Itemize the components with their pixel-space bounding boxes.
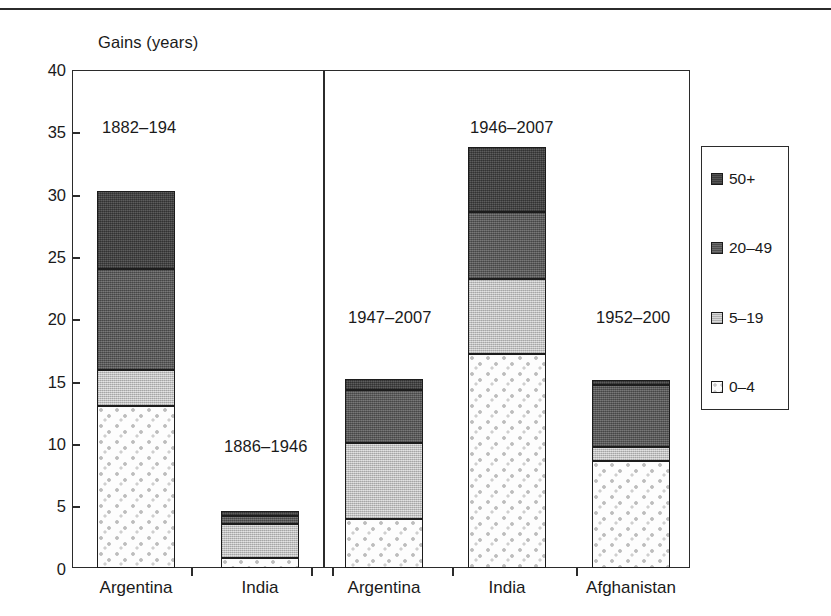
bar-segment-50plus bbox=[221, 511, 299, 516]
bar-segment-50plus bbox=[468, 147, 546, 212]
bar-segment-20-49 bbox=[221, 516, 299, 524]
bar-segment-5-19 bbox=[221, 524, 299, 558]
legend-label-0-4: 0–4 bbox=[729, 379, 755, 395]
legend-swatch-50plus-icon bbox=[711, 173, 723, 185]
bar-segment-0-4 bbox=[221, 558, 299, 568]
x-label-argentina-2: Argentina bbox=[334, 578, 434, 598]
bar-india-1886[interactable] bbox=[221, 511, 299, 568]
x-label-afghanistan: Afghanistan bbox=[575, 578, 687, 598]
bar-note-argentina-1882: 1882–194 bbox=[102, 118, 176, 137]
bar-segment-0-4 bbox=[97, 406, 175, 568]
bar-segment-5-19 bbox=[345, 443, 423, 519]
x-label-argentina-1: Argentina bbox=[86, 578, 186, 598]
bar-segment-50plus bbox=[592, 380, 670, 385]
legend-label-50plus: 50+ bbox=[729, 171, 755, 187]
x-label-india-2: India bbox=[457, 578, 557, 598]
bar-note-india-1886: 1886–1946 bbox=[224, 437, 308, 456]
legend-item-20-49[interactable]: 20–49 bbox=[711, 240, 772, 256]
bar-note-afghanistan-1952: 1952–200 bbox=[596, 308, 670, 327]
bar-segment-50plus bbox=[97, 191, 175, 269]
bar-note-argentina-1947: 1947–2007 bbox=[348, 308, 432, 327]
bar-segment-50plus bbox=[345, 379, 423, 390]
legend-item-0-4[interactable]: 0–4 bbox=[711, 379, 755, 395]
legend-swatch-5-19-icon bbox=[711, 312, 723, 324]
stacked-bar-chart-figure: Gains (years) 40 35 30 25 20 15 10 5 0 bbox=[0, 0, 831, 616]
legend: 50+ 20–49 5–19 0–4 bbox=[701, 146, 789, 410]
bar-afghanistan-1952[interactable] bbox=[592, 380, 670, 568]
legend-item-5-19[interactable]: 5–19 bbox=[711, 310, 763, 326]
bar-argentina-1947[interactable] bbox=[345, 379, 423, 568]
legend-item-50plus[interactable]: 50+ bbox=[711, 171, 755, 187]
legend-label-5-19: 5–19 bbox=[729, 310, 763, 326]
bar-segment-20-49 bbox=[345, 390, 423, 443]
bar-segment-5-19 bbox=[468, 279, 546, 354]
x-label-india-1: India bbox=[210, 578, 310, 598]
bar-note-india-1946: 1946–2007 bbox=[470, 118, 554, 137]
bar-segment-20-49 bbox=[592, 385, 670, 447]
legend-swatch-20-49-icon bbox=[711, 242, 723, 254]
bar-segment-0-4 bbox=[345, 519, 423, 568]
bar-segment-20-49 bbox=[97, 269, 175, 370]
legend-label-20-49: 20–49 bbox=[729, 240, 772, 256]
bar-argentina-1882[interactable] bbox=[97, 191, 175, 568]
bar-india-1946[interactable] bbox=[468, 147, 546, 568]
bar-segment-5-19 bbox=[97, 370, 175, 406]
legend-swatch-0-4-icon bbox=[711, 381, 723, 393]
bar-segment-0-4 bbox=[592, 461, 670, 568]
bar-segment-5-19 bbox=[592, 447, 670, 461]
bar-segment-20-49 bbox=[468, 212, 546, 279]
bar-segment-0-4 bbox=[468, 354, 546, 568]
